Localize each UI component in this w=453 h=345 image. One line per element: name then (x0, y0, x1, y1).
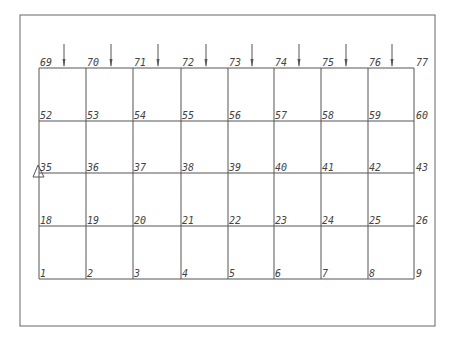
load-arrow-icon (391, 44, 394, 67)
node-label: 42 (369, 162, 381, 173)
node-label: 3 (133, 268, 140, 279)
node-label: 73 (229, 57, 241, 68)
node-label: 69 (40, 57, 52, 68)
node-label: 60 (416, 110, 428, 121)
node-label: 59 (369, 110, 381, 121)
load-arrow-icon (110, 44, 113, 67)
node-label: 76 (369, 57, 381, 68)
node-label: 7 (322, 268, 328, 279)
node-label: 71 (134, 57, 146, 68)
node-label: 77 (416, 57, 428, 68)
node-label: 21 (182, 215, 194, 226)
node-label: 8 (369, 268, 375, 279)
node-label: 39 (228, 162, 241, 173)
node-label: 57 (275, 110, 287, 121)
node-label: 25 (369, 215, 381, 226)
load-arrow-icon (298, 44, 301, 67)
diagram-canvas: 6970717273747576775253545556575859603536… (0, 0, 453, 345)
load-arrow-icon (251, 44, 254, 67)
node-label: 18 (40, 215, 52, 226)
node-label: 53 (87, 110, 99, 121)
node-labels: 6970717273747576775253545556575859603536… (39, 57, 428, 279)
node-label: 74 (275, 57, 287, 68)
node-label: 38 (181, 162, 194, 173)
node-label: 54 (134, 110, 146, 121)
node-label: 19 (87, 215, 99, 226)
node-label: 75 (322, 57, 334, 68)
node-label: 55 (182, 110, 194, 121)
node-label: 72 (182, 57, 194, 68)
node-label: 58 (322, 110, 334, 121)
node-label: 5 (229, 268, 235, 279)
node-label: 24 (322, 215, 334, 226)
node-label: 26 (416, 215, 428, 226)
node-label: 4 (182, 268, 188, 279)
node-label: 36 (86, 162, 99, 173)
load-arrows (63, 44, 394, 67)
load-arrow-icon (345, 44, 348, 67)
node-label: 43 (416, 162, 428, 173)
node-label: 41 (322, 162, 334, 173)
grid-lines (39, 68, 414, 279)
node-label: 35 (39, 162, 52, 173)
load-arrow-icon (205, 44, 208, 67)
node-label: 40 (275, 162, 287, 173)
node-label: 1 (40, 268, 46, 279)
node-label: 70 (87, 57, 99, 68)
node-label: 20 (134, 215, 146, 226)
node-label: 37 (133, 162, 146, 173)
node-label: 2 (87, 268, 93, 279)
load-arrow-icon (157, 44, 160, 67)
node-label: 9 (416, 268, 422, 279)
node-label: 23 (275, 215, 287, 226)
node-label: 52 (40, 110, 52, 121)
node-label: 22 (229, 215, 241, 226)
node-label: 56 (229, 110, 241, 121)
node-label: 6 (275, 268, 281, 279)
load-arrow-icon (63, 44, 66, 67)
